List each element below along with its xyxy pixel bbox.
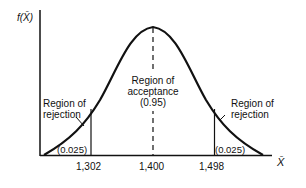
right-region-pointer	[219, 115, 225, 121]
x-axis-label: X̄	[277, 157, 284, 168]
right-region-probability: (0.025)	[215, 144, 245, 155]
center-region-line1: Region of	[122, 75, 184, 86]
right-region-label: Region of rejection	[231, 98, 274, 120]
tick-label-1302: 1,302	[76, 161, 101, 172]
y-axis-label: f(X̄)	[17, 12, 33, 23]
left-region-line2: rejection	[43, 109, 86, 120]
left-region-label: Region of rejection	[43, 98, 86, 120]
left-region-line1: Region of	[43, 98, 86, 109]
center-region-label: Region of acceptance (0.95)	[122, 75, 184, 108]
center-region-probability: (0.95)	[122, 97, 184, 108]
right-region-line1: Region of	[231, 98, 274, 109]
right-region-line2: rejection	[231, 109, 274, 120]
tick-label-1400: 1,400	[139, 161, 164, 172]
center-region-line2: acceptance	[122, 86, 184, 97]
left-region-probability: (0.025)	[57, 144, 87, 155]
tick-label-1498: 1,498	[199, 161, 224, 172]
